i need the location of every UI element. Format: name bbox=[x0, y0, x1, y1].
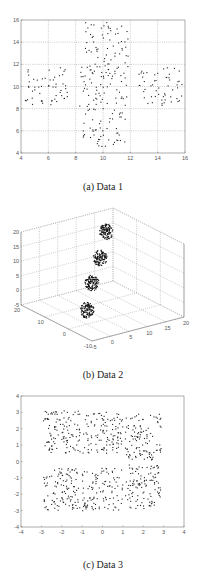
caption-data-3: (c) Data 3 bbox=[0, 559, 206, 570]
x-tick-label: -2 bbox=[59, 529, 64, 535]
y-tick-label: 4 bbox=[16, 393, 19, 399]
y-tick-label: -4 bbox=[14, 524, 19, 530]
x-tick-label: 0 bbox=[101, 529, 104, 535]
y-tick-label: 1 bbox=[16, 442, 19, 448]
x-tick-label: -4 bbox=[19, 529, 24, 535]
y-tick-label: 3 bbox=[16, 409, 19, 415]
x-tick-label: 1 bbox=[121, 529, 124, 535]
y-tick-label: -2 bbox=[14, 491, 19, 497]
scatter-plot-data-3: -4-3-2-101234-4-3-2-101234 bbox=[0, 0, 206, 583]
x-tick-label: -1 bbox=[80, 529, 85, 535]
x-tick-label: 2 bbox=[142, 529, 145, 535]
x-tick-label: 4 bbox=[182, 529, 185, 535]
x-tick-label: -3 bbox=[39, 529, 44, 535]
data-points bbox=[43, 410, 162, 511]
y-tick-label: -3 bbox=[14, 508, 19, 514]
y-tick-label: 2 bbox=[16, 426, 19, 432]
y-tick-label: 0 bbox=[16, 459, 19, 465]
chart-data-3: -4-3-2-101234-4-3-2-101234 (c) Data 3 bbox=[0, 0, 206, 583]
x-tick-label: 3 bbox=[162, 529, 165, 535]
y-tick-label: -1 bbox=[14, 475, 19, 481]
